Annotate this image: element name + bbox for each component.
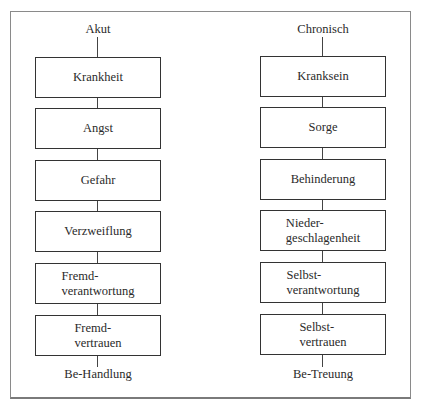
column-header-chronic: Chronisch	[260, 22, 386, 36]
node-label: Sorge	[309, 120, 338, 135]
connector	[97, 149, 98, 160]
connector	[97, 37, 98, 57]
connector	[322, 303, 323, 314]
connector	[97, 304, 98, 315]
flow-node: Selbst- verantwortung	[260, 262, 386, 303]
connector	[97, 356, 98, 367]
flow-node: Behinderung	[260, 159, 386, 200]
column-footer-acute: Be-Handlung	[35, 367, 161, 381]
node-label: Angst	[83, 121, 113, 136]
connector	[322, 37, 323, 57]
connector	[322, 251, 323, 262]
node-label: Fremd- vertrauen	[74, 321, 121, 351]
connector	[322, 97, 323, 107]
node-label: Fremd- verantwortung	[62, 269, 135, 299]
connector	[97, 98, 98, 108]
flow-node: Fremd- vertrauen	[35, 315, 161, 356]
flow-node: Sorge	[260, 107, 386, 148]
node-label: Kranksein	[297, 69, 348, 84]
column-header-acute: Akut	[35, 22, 161, 36]
flow-node: Verzweiflung	[35, 211, 161, 252]
node-label: Verzweiflung	[64, 224, 131, 239]
flow-node: Kranksein	[260, 56, 386, 97]
node-label: Gefahr	[81, 173, 116, 188]
flow-node: Fremd- verantwortung	[35, 263, 161, 304]
connector	[322, 200, 323, 210]
node-label: Selbst- verantwortung	[287, 268, 360, 298]
connector	[97, 252, 98, 263]
connector	[97, 201, 98, 211]
column-footer-chronic: Be-Treuung	[260, 367, 386, 381]
connector	[322, 148, 323, 159]
flow-node: Angst	[35, 108, 161, 149]
flow-node: Krankheit	[35, 57, 161, 98]
flow-node: Gefahr	[35, 160, 161, 201]
node-label: Krankheit	[73, 70, 123, 85]
node-label: Selbst- vertrauen	[299, 320, 346, 350]
flow-node: Nieder- geschlagenheit	[260, 210, 386, 251]
flow-node: Selbst- vertrauen	[260, 314, 386, 355]
node-label: Nieder- geschlagenheit	[286, 216, 360, 246]
connector	[322, 355, 323, 367]
node-label: Behinderung	[291, 172, 356, 187]
